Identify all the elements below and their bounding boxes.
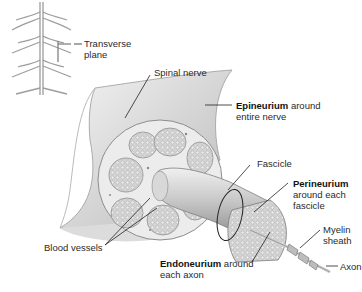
label-fascicle: Fascicle [257, 158, 292, 169]
spinal-cord-thumbnail [12, 2, 71, 95]
label-transverse-plane: Transverse plane [84, 38, 131, 60]
label-epineurium: Epineurium around entire nerve [236, 100, 321, 122]
label-spinal-nerve: Spinal nerve [154, 67, 207, 78]
label-endoneurium: Endoneurium around each axon [160, 258, 253, 280]
myelin-segments [287, 244, 318, 270]
label-perineurium: Perineurium around each fascicle [293, 178, 348, 211]
label-myelin-sheath: Myelin sheath [323, 224, 352, 246]
transverse-plane-marker [58, 41, 71, 62]
label-blood-vessels: Blood vessels [44, 242, 103, 253]
label-axon: Axon [340, 261, 362, 272]
